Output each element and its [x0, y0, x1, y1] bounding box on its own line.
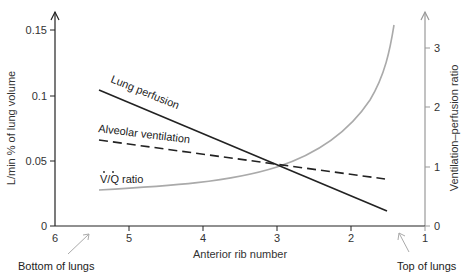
y-right-title: Ventilation–perfusion ratio: [448, 65, 460, 192]
x-tick-4: 4: [200, 232, 206, 244]
y-left-tick-3: 0.15: [26, 24, 47, 36]
chart: 0 0.05 0.1 0.15 L/min % of lung volume 0…: [0, 0, 465, 278]
y-right-tick-3: 3: [434, 42, 440, 54]
x-axis: 6 5 4 3 2 1 Anterior rib number: [52, 226, 428, 260]
x-title: Anterior rib number: [193, 248, 287, 260]
series-lung-perfusion: [99, 90, 387, 211]
x-tick-3: 3: [274, 232, 280, 244]
svg-text:Top of lungs: Top of lungs: [397, 260, 457, 272]
series-vq-ratio: [99, 25, 394, 190]
y-right-tick-2: 2: [434, 101, 440, 113]
x-tick-1: 1: [422, 232, 428, 244]
x-tick-2: 2: [348, 232, 354, 244]
y-right-tick-1: 1: [434, 161, 440, 173]
y-left-tick-1: 0.05: [26, 155, 47, 167]
left-y-axis: 0 0.05 0.1 0.15 L/min % of lung volume: [5, 12, 59, 232]
label-vq-ratio: V/Q ratio: [100, 171, 143, 185]
svg-text:V/Q ratio: V/Q ratio: [100, 173, 143, 185]
y-left-title: L/min % of lung volume: [5, 71, 17, 185]
right-y-axis: 0 1 2 3 Ventilation–perfusion ratio: [421, 12, 460, 232]
x-tick-6: 6: [52, 232, 58, 244]
y-left-tick-2: 0.1: [32, 90, 47, 102]
y-right-tick-0: 0: [434, 220, 440, 232]
label-alveolar-ventilation: Alveolar ventilation: [98, 122, 191, 145]
label-lung-perfusion: Lung perfusion: [109, 73, 181, 111]
y-left-tick-0: 0: [41, 220, 47, 232]
x-tick-5: 5: [126, 232, 132, 244]
svg-text:Bottom of lungs: Bottom of lungs: [18, 260, 95, 272]
